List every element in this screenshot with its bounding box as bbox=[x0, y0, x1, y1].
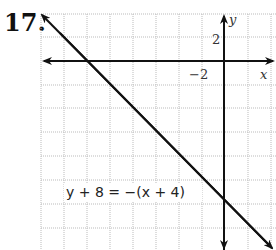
y-tick-label: 2 bbox=[212, 32, 220, 47]
x-tick-label: −2 bbox=[189, 67, 208, 82]
x-axis-label: x bbox=[260, 67, 268, 82]
coordinate-graph: y 2 x −2 y + 8 = −(x + 4) bbox=[0, 0, 276, 250]
y-axis-label: y bbox=[228, 12, 237, 27]
equation-label: y + 8 = −(x + 4) bbox=[66, 184, 185, 200]
